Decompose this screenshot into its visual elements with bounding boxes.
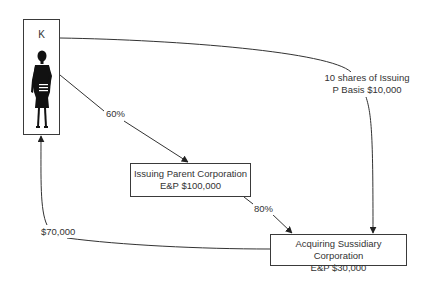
issuing-parent-box: Issuing Parent Corporation E&P $100,000 (130, 163, 251, 197)
businesswoman-silhouette-icon (28, 48, 56, 132)
edge-subsidiary-to-k-upper (41, 136, 47, 225)
edge-k-to-parent-lower (124, 121, 188, 162)
edge-subsidiary-to-k (67, 238, 270, 249)
shareholder-label: K (24, 29, 59, 41)
issuing-parent-name: Issuing Parent Corporation (131, 168, 250, 180)
shareholder-k-box: K (23, 19, 60, 135)
edge-parent-to-subsidiary-lower (271, 213, 292, 233)
label-70000: $70,000 (40, 226, 76, 238)
label-shares-basis: 10 shares of Issuing P Basis $10,000 (312, 72, 422, 96)
acquiring-subsidiary-box: Acquiring Sussidiary Corporation E&P $30… (270, 234, 407, 266)
edge-k-to-subsidiary (60, 38, 351, 72)
edge-k-to-parent (60, 75, 104, 111)
label-80-percent: 80% (253, 203, 274, 215)
edge-parent-to-subsidiary (244, 197, 253, 204)
label-shares-line1: 10 shares of Issuing (312, 72, 422, 84)
edge-k-to-subsidiary-lower (366, 97, 373, 233)
acquiring-subsidiary-ep: E&P $30,000 (271, 262, 406, 274)
issuing-parent-ep: E&P $100,000 (131, 180, 250, 192)
ownership-diagram: K Issuing Parent Corpo (0, 0, 428, 281)
label-shares-line2: P Basis $10,000 (312, 84, 422, 96)
acquiring-subsidiary-name: Acquiring Sussidiary Corporation (271, 238, 406, 262)
label-60-percent: 60% (105, 108, 126, 120)
